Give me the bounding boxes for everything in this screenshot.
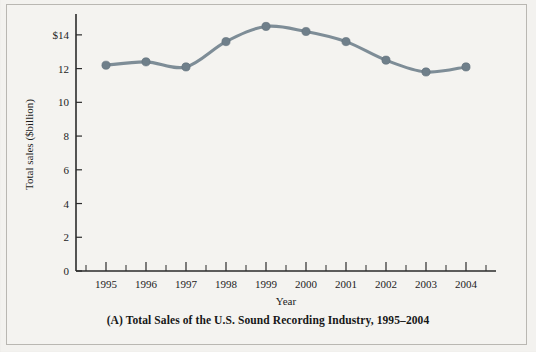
data-point-marker[interactable] — [422, 68, 430, 76]
y-tick-label: 0 — [64, 265, 70, 277]
data-point-marker[interactable] — [382, 56, 390, 64]
y-tick-label: 4 — [64, 198, 70, 210]
data-point-marker[interactable] — [262, 22, 270, 30]
x-tick-label: 1997 — [175, 278, 198, 290]
data-point-marker[interactable] — [342, 38, 350, 46]
y-tick-label: 2 — [64, 231, 70, 243]
figure-panel: 024681012$141995199619971998199920002001… — [0, 0, 536, 352]
data-point-marker[interactable] — [102, 61, 110, 69]
data-point-marker[interactable] — [462, 63, 470, 71]
y-axis-title: Total sales ($billion) — [23, 99, 36, 190]
x-tick-label: 2002 — [375, 278, 397, 290]
x-tick-label: 2000 — [295, 278, 318, 290]
y-tick-label: $14 — [53, 29, 70, 41]
figure-caption: (A) Total Sales of the U.S. Sound Record… — [0, 314, 536, 326]
y-tick-label: 6 — [64, 164, 70, 176]
data-point-marker[interactable] — [142, 58, 150, 66]
x-tick-label: 1998 — [215, 278, 238, 290]
y-tick-label: 8 — [64, 130, 70, 142]
chart-plot-area: 024681012$141995199619971998199920002001… — [0, 0, 536, 352]
y-tick-label: 12 — [58, 63, 69, 75]
x-tick-label: 1999 — [255, 278, 278, 290]
x-tick-label: 1996 — [135, 278, 158, 290]
line-chart-svg: 024681012$141995199619971998199920002001… — [0, 0, 536, 352]
data-point-marker[interactable] — [302, 27, 310, 35]
x-tick-label: 2003 — [415, 278, 438, 290]
x-tick-label: 2004 — [455, 278, 478, 290]
x-tick-label: 1995 — [95, 278, 118, 290]
data-point-marker[interactable] — [222, 38, 230, 46]
data-point-marker[interactable] — [182, 63, 190, 71]
x-axis-title: Year — [276, 295, 297, 307]
series-line-total-sales — [106, 26, 466, 72]
y-tick-label: 10 — [58, 96, 70, 108]
x-tick-label: 2001 — [335, 278, 357, 290]
